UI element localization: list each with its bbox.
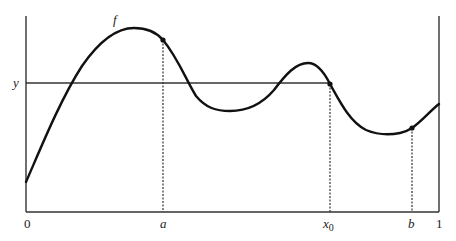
point-b (409, 125, 414, 130)
label-f: f (113, 12, 119, 27)
label-y: y (11, 75, 19, 90)
label-x0: x0 (322, 216, 334, 233)
point-x0 (327, 81, 332, 86)
label-a: a (160, 216, 167, 231)
point-a (160, 37, 165, 42)
function-curve-f (26, 28, 439, 182)
label-x0-sub: 0 (329, 222, 334, 233)
label-b: b (408, 216, 415, 231)
function-graph: f y 0 a x0 b 1 (0, 0, 456, 241)
label-one: 1 (436, 216, 443, 231)
label-origin: 0 (24, 216, 31, 231)
